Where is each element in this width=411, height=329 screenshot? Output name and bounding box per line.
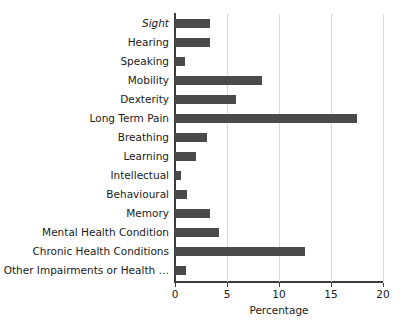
bar-row: Sight <box>175 14 383 33</box>
bar-row: Speaking <box>175 52 383 71</box>
bar <box>175 19 210 28</box>
bar <box>175 190 187 199</box>
x-tick-10 <box>279 283 280 287</box>
bar <box>175 76 262 85</box>
bar <box>175 95 236 104</box>
category-label: Hearing <box>0 33 169 52</box>
x-tick-label-20: 20 <box>376 288 389 301</box>
plot-area: SightHearingSpeakingMobilityDexterityLon… <box>175 14 383 282</box>
bar-row: Chronic Health Conditions <box>175 242 383 261</box>
gridline-20 <box>383 14 384 282</box>
category-label: Chronic Health Conditions <box>0 242 169 261</box>
bar <box>175 152 196 161</box>
x-tick-label-5: 5 <box>224 288 231 301</box>
bar-row: Breathing <box>175 128 383 147</box>
x-tick-5 <box>227 283 228 287</box>
category-label: Mental Health Condition <box>0 223 169 242</box>
bar <box>175 171 181 180</box>
bar-row: Memory <box>175 204 383 223</box>
category-label: Other Impairments or Health … <box>0 261 169 280</box>
bar-row: Intellectual <box>175 166 383 185</box>
x-tick-label-15: 15 <box>324 288 337 301</box>
category-label: Mobility <box>0 71 169 90</box>
bar-row: Behavioural <box>175 185 383 204</box>
bar-row: Mental Health Condition <box>175 223 383 242</box>
x-tick-20 <box>383 283 384 287</box>
x-tick-0 <box>175 283 176 287</box>
category-label: Long Term Pain <box>0 109 169 128</box>
category-label: Speaking <box>0 52 169 71</box>
bar <box>175 266 186 275</box>
category-label: Breathing <box>0 128 169 147</box>
category-label: Dexterity <box>0 90 169 109</box>
bar-row: Mobility <box>175 71 383 90</box>
bar-row: Learning <box>175 147 383 166</box>
bar-row: Dexterity <box>175 90 383 109</box>
x-tick-label-10: 10 <box>272 288 285 301</box>
x-tick-label-0: 0 <box>172 288 179 301</box>
bar <box>175 114 357 123</box>
category-label: Intellectual <box>0 166 169 185</box>
bar <box>175 38 210 47</box>
x-tick-15 <box>331 283 332 287</box>
bar <box>175 133 207 142</box>
bar <box>175 57 185 66</box>
bar-row: Other Impairments or Health … <box>175 261 383 280</box>
category-label: Learning <box>0 147 169 166</box>
bar-chart: SightHearingSpeakingMobilityDexterityLon… <box>0 0 411 329</box>
category-label: Sight <box>0 14 169 33</box>
bar <box>175 209 210 218</box>
bar-row: Hearing <box>175 33 383 52</box>
bar <box>175 228 219 237</box>
bar <box>175 247 305 256</box>
x-axis-title: Percentage <box>175 304 383 316</box>
bar-row: Long Term Pain <box>175 109 383 128</box>
category-label: Memory <box>0 204 169 223</box>
category-label: Behavioural <box>0 185 169 204</box>
